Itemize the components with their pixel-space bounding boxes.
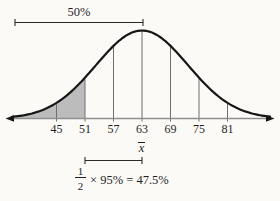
mean-label: x xyxy=(138,141,145,155)
top-annotation-label: 50% xyxy=(68,5,91,19)
shaded-left-tail-region xyxy=(13,78,85,119)
x-tick-label: 51 xyxy=(79,122,91,136)
equation: 1 2 × 95% = 47.5% xyxy=(75,165,169,193)
x-tick-label: 45 xyxy=(51,122,63,136)
equation-rest: × 95% = 47.5% xyxy=(90,173,169,187)
x-tick-label: 57 xyxy=(108,122,120,136)
normal-curve-figure: 45515763697581 50% x 1 2 × 95% = 47.5% xyxy=(0,0,280,201)
equation-fraction-denominator: 2 xyxy=(78,180,84,192)
bell-curve xyxy=(12,31,270,117)
x-tick-label: 69 xyxy=(165,122,177,136)
x-tick-label: 63 xyxy=(136,122,148,136)
axis-left-arrow-icon xyxy=(6,115,15,122)
x-tick-label: 75 xyxy=(193,122,205,136)
equation-fraction-numerator: 1 xyxy=(78,165,84,177)
normal-curve-svg: 45515763697581 50% x 1 2 × 95% = 47.5% xyxy=(0,0,280,201)
x-tick-label: 81 xyxy=(222,122,234,136)
